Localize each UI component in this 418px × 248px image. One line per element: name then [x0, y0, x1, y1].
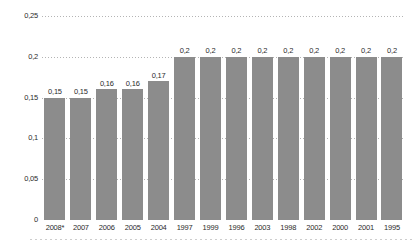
- x-axis-label: 2000: [327, 224, 353, 232]
- y-axis-tick-label: 0,25: [24, 12, 38, 20]
- bar-slot: 0,2: [223, 16, 249, 220]
- bar: [330, 57, 351, 220]
- bar: [70, 98, 91, 220]
- bars-container: 0,150,150,160,160,170,20,20,20,20,20,20,…: [42, 16, 405, 220]
- x-axis: 2008*20072006200520041997199919962003199…: [42, 224, 405, 232]
- y-axis-tick-label: 0: [34, 216, 38, 224]
- bar-slot: 0,16: [94, 16, 120, 220]
- bar: [304, 57, 325, 220]
- x-axis-label: 1999: [198, 224, 224, 232]
- x-axis-label: 2001: [353, 224, 379, 232]
- bar-slot: 0,2: [327, 16, 353, 220]
- bar-value-label: 0,15: [74, 88, 88, 96]
- bar: [200, 57, 221, 220]
- bar-value-label: 0,2: [232, 47, 242, 55]
- bar-value-label: 0,2: [257, 47, 267, 55]
- x-axis-label: 1997: [172, 224, 198, 232]
- y-axis-tick-label: 0,1: [28, 134, 38, 142]
- bar-slot: 0,17: [146, 16, 172, 220]
- bar: [356, 57, 377, 220]
- x-axis-label: 2003: [249, 224, 275, 232]
- bar-slot: 0,2: [301, 16, 327, 220]
- bar: [96, 89, 117, 220]
- x-axis-label: 1998: [275, 224, 301, 232]
- y-axis-tick-label: 0,2: [28, 53, 38, 61]
- bar-slot: 0,2: [379, 16, 405, 220]
- bar-slot: 0,2: [198, 16, 224, 220]
- bar-chart-figure: 0,250,20,150,10,050 0,150,150,160,160,17…: [0, 0, 418, 248]
- bar-value-label: 0,15: [48, 88, 62, 96]
- bar-slot: 0,2: [172, 16, 198, 220]
- bar: [226, 57, 247, 220]
- bar: [148, 81, 169, 220]
- x-axis-label: 2007: [68, 224, 94, 232]
- bottom-separator-line: [30, 239, 412, 240]
- x-axis-label: 2006: [94, 224, 120, 232]
- bar: [174, 57, 195, 220]
- x-axis-label: 2005: [120, 224, 146, 232]
- bar-value-label: 0,2: [361, 47, 371, 55]
- bar-slot: 0,15: [68, 16, 94, 220]
- bar-value-label: 0,2: [283, 47, 293, 55]
- x-axis-label: 2004: [146, 224, 172, 232]
- bar-value-label: 0,2: [180, 47, 190, 55]
- y-axis: 0,250,20,150,10,050: [0, 0, 38, 248]
- bar-value-label: 0,2: [309, 47, 319, 55]
- bar-value-label: 0,2: [387, 47, 397, 55]
- bar-value-label: 0,17: [152, 72, 166, 80]
- y-axis-tick-label: 0,15: [24, 94, 38, 102]
- bar: [278, 57, 299, 220]
- bar-slot: 0,2: [275, 16, 301, 220]
- bar-slot: 0,16: [120, 16, 146, 220]
- x-axis-label: 2008*: [42, 224, 68, 232]
- bar-slot: 0,2: [249, 16, 275, 220]
- bar-value-label: 0,16: [100, 80, 114, 88]
- x-axis-label: 2002: [301, 224, 327, 232]
- plot-area: 0,150,150,160,160,170,20,20,20,20,20,20,…: [42, 16, 405, 220]
- bar-value-label: 0,2: [335, 47, 345, 55]
- bar: [44, 98, 65, 220]
- bar: [381, 57, 402, 220]
- bar-value-label: 0,16: [126, 80, 140, 88]
- bar: [252, 57, 273, 220]
- x-axis-label: 1996: [223, 224, 249, 232]
- y-axis-tick-label: 0,05: [24, 175, 38, 183]
- bar-value-label: 0,2: [206, 47, 216, 55]
- bar-slot: 0,2: [353, 16, 379, 220]
- bar-slot: 0,15: [42, 16, 68, 220]
- x-axis-label: 1995: [379, 224, 405, 232]
- bar: [122, 89, 143, 220]
